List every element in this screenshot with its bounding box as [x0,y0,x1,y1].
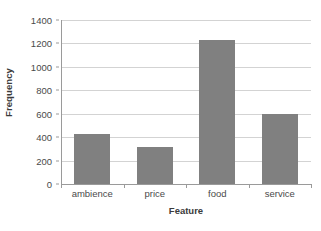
y-axis-tick-mark [56,160,59,161]
y-axis-tick-label: 1400 [31,15,52,26]
bar [199,40,235,184]
x-axis-tick-label: price [124,188,187,199]
y-axis-tick-mark [56,113,59,114]
y-axis-tick-label: 600 [36,108,52,119]
x-axis-tick-label: food [186,188,249,199]
x-axis-tick-label: service [249,188,312,199]
y-axis-tick-label: 400 [36,132,52,143]
y-axis-tick-label: 800 [36,85,52,96]
y-axis-tick-mark [56,90,59,91]
bar-slot [124,20,187,184]
bar-slot [249,20,312,184]
bar [137,147,173,184]
y-axis-tick-mark [56,43,59,44]
y-axis-tick-mark [56,20,59,21]
bars-group [61,20,311,184]
y-axis-tick-label: 1000 [31,61,52,72]
y-axis-tick-label: 1200 [31,38,52,49]
bar-chart: Frequency 0200400600800100012001400 ambi… [0,0,321,231]
y-axis-tick-mark [56,184,59,185]
y-axis-tick-labels: 0200400600800100012001400 [18,20,56,184]
x-axis-title: Feature [61,205,311,216]
plot-area [61,20,311,184]
y-axis-title: Frequency [0,0,16,185]
x-axis-tick-label: ambience [61,188,124,199]
y-axis-tick-mark [56,137,59,138]
y-axis-tick-label: 200 [36,155,52,166]
bar [262,114,298,184]
y-axis-title-label: Frequency [3,68,14,117]
bar-slot [186,20,249,184]
x-axis-tick-mark [311,184,312,188]
bar [74,134,110,184]
y-axis-tick-label: 0 [47,179,52,190]
x-axis-tick-labels: ambiencepricefoodservice [61,188,311,199]
y-axis-tick-mark [56,66,59,67]
bar-slot [61,20,124,184]
